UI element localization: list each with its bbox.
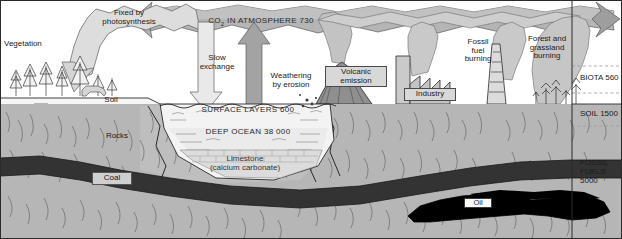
soil-reservoir-label: SOIL 1500 <box>580 109 618 118</box>
biota-reservoir-label: BIOTA 560 <box>580 73 619 82</box>
carbon-cycle-diagram: CO2 IN ATMOSPHERE 730 Fixed by photosynt… <box>0 0 622 239</box>
diagram-canvas <box>0 0 622 239</box>
fossil-fuels-reservoir-label: FOSSIL FUELS 5000 <box>580 158 608 186</box>
